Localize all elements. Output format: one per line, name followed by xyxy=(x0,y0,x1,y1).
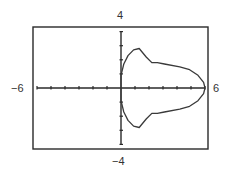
graph-window xyxy=(0,0,227,172)
